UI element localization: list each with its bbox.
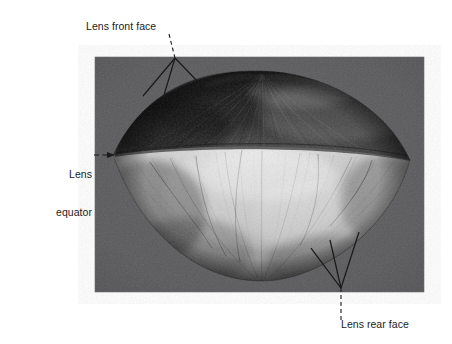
label-lens-equator-line1: Lens	[36, 168, 92, 181]
label-lens-equator: Lens equator	[36, 143, 92, 243]
label-lens-front-face: Lens front face	[86, 20, 156, 33]
lens-micrograph-photo	[94, 57, 424, 292]
label-lens-equator-line2: equator	[36, 206, 92, 219]
label-lens-rear-face: Lens rear face	[341, 318, 409, 331]
lens-micrograph-figure: Lens front face Lens equator Lens rear f…	[0, 0, 452, 344]
